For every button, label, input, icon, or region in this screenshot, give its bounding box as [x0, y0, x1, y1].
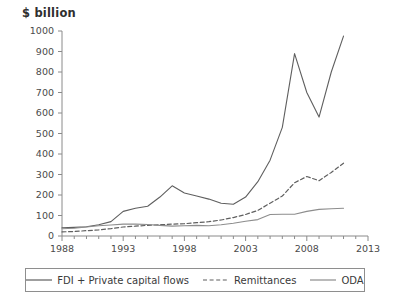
x-tick-label: 2013	[356, 243, 380, 254]
x-tick-label: 2008	[295, 243, 319, 254]
y-tick-label: 0	[48, 230, 54, 241]
x-axis-ticks: 198819931998200320082013	[50, 236, 380, 254]
series-line	[62, 36, 344, 228]
legend-entry[interactable]: ODA	[310, 275, 363, 286]
y-tick-label: 100	[36, 210, 54, 221]
y-tick-label: 300	[36, 169, 54, 180]
legend-line-swatch	[310, 276, 336, 284]
y-tick-label: 200	[36, 189, 54, 200]
x-tick-label: 1988	[50, 243, 74, 254]
y-tick-label: 1000	[30, 25, 54, 36]
y-tick-label: 700	[36, 87, 54, 98]
legend-label: Remittances	[234, 275, 296, 286]
x-tick-label: 2003	[234, 243, 258, 254]
y-tick-label: 900	[36, 46, 54, 57]
x-tick-label: 1993	[111, 243, 135, 254]
y-tick-label: 500	[36, 128, 54, 139]
legend-label: ODA	[341, 275, 363, 286]
y-tick-label: 600	[36, 107, 54, 118]
x-tick-label: 1998	[172, 243, 196, 254]
legend-line-swatch	[203, 276, 229, 284]
y-tick-label: 800	[36, 66, 54, 77]
legend-label: FDI + Private capital flows	[57, 275, 189, 286]
line-chart-plot: 01002003004005006007008009001000 1988199…	[0, 0, 396, 270]
y-tick-label: 400	[36, 148, 54, 159]
legend-entry[interactable]: FDI + Private capital flows	[26, 275, 189, 286]
legend-entry[interactable]: Remittances	[203, 275, 296, 286]
chart-legend: FDI + Private capital flowsRemittancesOD…	[25, 268, 365, 292]
series-line	[62, 208, 344, 229]
legend-line-swatch	[26, 276, 52, 284]
data-series-group	[62, 36, 344, 232]
y-axis-ticks: 01002003004005006007008009001000	[30, 25, 62, 241]
chart-figure: $ billion 010020030040050060070080090010…	[0, 0, 396, 302]
